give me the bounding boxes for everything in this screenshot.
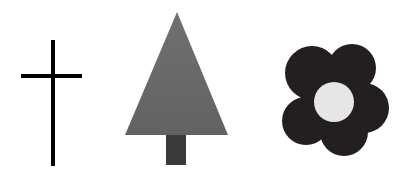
flower-center: [314, 82, 354, 122]
shapes-svg: [0, 0, 410, 178]
figure-canvas: [0, 0, 410, 178]
cross-icon: [21, 40, 82, 166]
tree-icon: [125, 12, 228, 165]
flower-icon: [282, 44, 389, 156]
